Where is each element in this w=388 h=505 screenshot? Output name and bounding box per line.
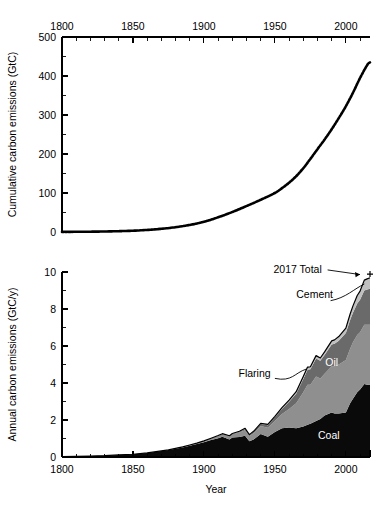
carbon-emissions-figure: 180018501900195020000100200300400500Cumu…: [0, 0, 388, 505]
y-tick-label-300: 300: [38, 109, 56, 121]
x-tick-label-2000: 2000: [334, 20, 358, 32]
y-tick-label-8: 8: [50, 303, 56, 315]
series-label-cement: Cement: [296, 288, 333, 300]
annotation-text: 2017 Total: [273, 263, 321, 275]
series-label-coal: Coal: [318, 429, 340, 441]
y-tick-label-500: 500: [38, 31, 56, 43]
series-label-oil: Oil: [325, 356, 338, 368]
x-axis-title: Year: [205, 483, 227, 495]
y-tick-label-6: 6: [50, 340, 56, 352]
x-tick-label-1800: 1800: [50, 463, 74, 475]
y-axis-title: Annual carbon emissions (GtC/y): [6, 287, 18, 441]
figure-canvas: 180018501900195020000100200300400500Cumu…: [0, 0, 388, 505]
y-tick-label-0: 0: [50, 451, 56, 463]
y-tick-label-200: 200: [38, 148, 56, 160]
y-tick-label-100: 100: [38, 187, 56, 199]
x-tick-label-1900: 1900: [192, 20, 216, 32]
x-tick-label-1850: 1850: [121, 20, 145, 32]
series-label-flaring: Flaring: [239, 367, 271, 379]
y-axis-title: Cumulative carbon emissions (GtC): [6, 52, 18, 218]
y-tick-label-4: 4: [50, 377, 56, 389]
x-tick-label-1900: 1900: [192, 463, 216, 475]
x-tick-label-2000: 2000: [334, 463, 358, 475]
x-tick-label-1850: 1850: [121, 463, 145, 475]
x-tick-label-1950: 1950: [263, 20, 287, 32]
y-tick-label-10: 10: [44, 266, 56, 278]
series-label-gas: Gas: [322, 306, 341, 318]
y-tick-label-400: 400: [38, 70, 56, 82]
y-tick-label-2: 2: [50, 414, 56, 426]
x-tick-label-1950: 1950: [263, 463, 287, 475]
y-tick-label-0: 0: [50, 226, 56, 238]
